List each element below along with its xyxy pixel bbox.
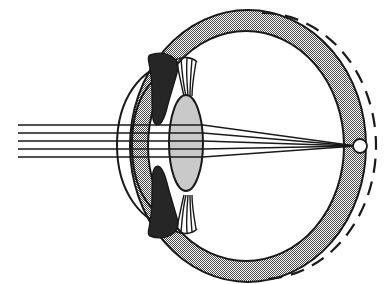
- focal-point: [353, 139, 367, 153]
- eye-cross-section-diagram: Eye cross-section with light refraction: [0, 0, 384, 284]
- lens: [169, 95, 203, 191]
